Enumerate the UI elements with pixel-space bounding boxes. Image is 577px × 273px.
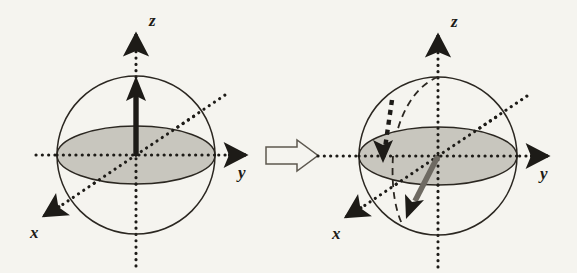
axis-x-arrow <box>346 207 362 217</box>
panel-initial-state: z y x <box>29 11 246 266</box>
axis-label-y: y <box>538 164 548 183</box>
axis-label-z: z <box>450 12 458 31</box>
axis-label-z: z <box>148 11 156 30</box>
axis-label-y: y <box>236 163 246 182</box>
figure-canvas: z y x <box>0 0 577 273</box>
panel-precessing-state: z y x <box>318 12 548 267</box>
transition-arrow-outline <box>266 140 318 171</box>
axis-label-x: x <box>331 224 341 243</box>
axis-label-x: x <box>29 223 39 242</box>
bloch-sphere-diagram: z y x <box>0 0 577 273</box>
axis-x-arrow <box>44 206 60 216</box>
transition-arrow <box>266 140 318 171</box>
